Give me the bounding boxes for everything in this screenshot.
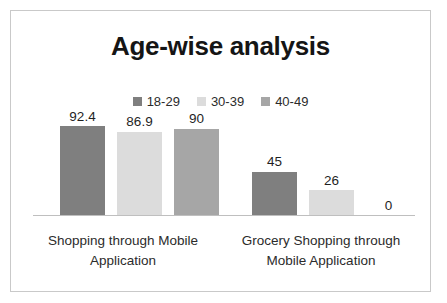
bar-value-18-29-grocery: 45 [246,155,303,169]
bar-slot-18-29-grocery: 45 [246,119,303,215]
bar-value-40-49-grocery: 0 [360,199,417,213]
bar-group-grocery: 45 26 0 [246,119,417,215]
legend-swatch-18-29 [133,97,142,106]
legend-label-40-49: 40-49 [275,95,308,108]
bar-value-30-39-grocery: 26 [303,174,360,188]
legend-label-18-29: 18-29 [147,95,180,108]
bar-40-49-shopping [174,129,219,215]
category-axis-line [33,215,415,216]
plot-area: 92.4 86.9 90 45 26 0 [24,119,420,216]
chart-title: Age-wise analysis [11,33,430,59]
category-axis-labels: Shopping through Mobile Application Groc… [24,231,420,270]
chart-legend: 18-29 30-39 40-49 [11,95,430,108]
legend-item-40-49: 40-49 [261,95,308,108]
bar-value-30-39-shopping: 86.9 [111,115,168,129]
bar-18-29-grocery [252,172,297,215]
legend-label-30-39: 30-39 [211,95,244,108]
bar-slot-30-39-grocery: 26 [303,119,360,215]
bar-value-18-29-shopping: 92.4 [54,110,111,124]
bar-group-shopping: 92.4 86.9 90 [54,119,225,215]
legend-swatch-40-49 [261,97,270,106]
bar-slot-30-39-shopping: 86.9 [111,119,168,215]
bar-slot-40-49-shopping: 90 [168,119,225,215]
bar-slot-40-49-grocery: 0 [360,119,417,215]
category-label-grocery: Grocery Shopping through Mobile Applicat… [222,231,420,270]
chart-container: Age-wise analysis 18-29 30-39 40-49 92.4… [10,10,431,292]
legend-swatch-30-39 [197,97,206,106]
bar-30-39-shopping [117,132,162,215]
legend-item-18-29: 18-29 [133,95,180,108]
bar-slot-18-29-shopping: 92.4 [54,119,111,215]
bar-30-39-grocery [309,190,354,215]
bar-value-40-49-shopping: 90 [168,112,225,126]
legend-item-30-39: 30-39 [197,95,244,108]
bar-18-29-shopping [60,126,105,215]
category-label-shopping: Shopping through Mobile Application [24,231,222,270]
